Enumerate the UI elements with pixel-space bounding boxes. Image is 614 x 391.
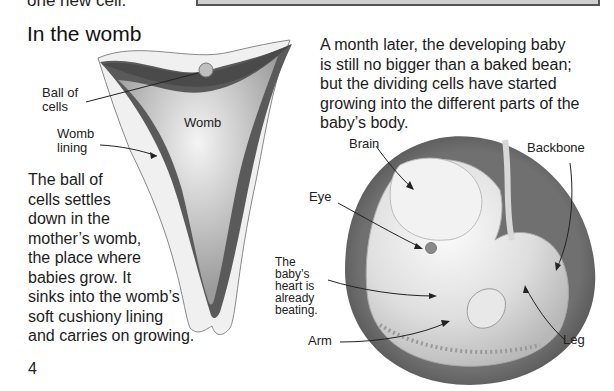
label-eye: Eye bbox=[309, 190, 331, 204]
label-ball-of-cells: Ball of cells bbox=[42, 86, 78, 114]
caption-line: the place where bbox=[28, 248, 194, 268]
label-heart: The baby’s heart is already beating. bbox=[275, 256, 318, 316]
label-arm: Arm bbox=[308, 334, 332, 348]
label-line: Ball of bbox=[42, 86, 78, 100]
caption-line: and carries on growing. bbox=[28, 326, 194, 346]
intro-line: baby’s body. bbox=[320, 113, 579, 133]
intro-line: but the dividing cells have started bbox=[320, 74, 579, 94]
embryo-illustration bbox=[328, 136, 595, 385]
caption-line: soft cushiony lining bbox=[28, 307, 194, 327]
label-womb: Womb bbox=[184, 116, 221, 130]
label-backbone: Backbone bbox=[527, 141, 585, 155]
womb-caption: The ball of cells settles down in the mo… bbox=[28, 170, 194, 346]
label-womb-lining: Womb lining bbox=[57, 127, 94, 155]
caption-line: cells settles bbox=[28, 190, 194, 210]
intro-line: A month later, the developing baby bbox=[320, 35, 579, 55]
label-brain: Brain bbox=[349, 137, 379, 151]
caption-line: babies grow. It bbox=[28, 268, 194, 288]
embryo-intro: A month later, the developing baby is st… bbox=[320, 35, 579, 133]
caption-line: down in the bbox=[28, 209, 194, 229]
label-line: cells bbox=[42, 100, 78, 114]
caption-line: The ball of bbox=[28, 170, 194, 190]
label-line: lining bbox=[57, 141, 94, 155]
intro-line: is still no bigger than a baked bean; bbox=[320, 55, 579, 75]
label-line: Womb bbox=[57, 127, 94, 141]
label-line: beating. bbox=[275, 304, 318, 316]
page-number: 4 bbox=[28, 360, 37, 378]
intro-line: growing into the different parts of the bbox=[320, 94, 579, 114]
caption-line: sinks into the womb’s bbox=[28, 287, 194, 307]
caption-line: mother’s womb, bbox=[28, 229, 194, 249]
label-leg: Leg bbox=[563, 333, 585, 347]
